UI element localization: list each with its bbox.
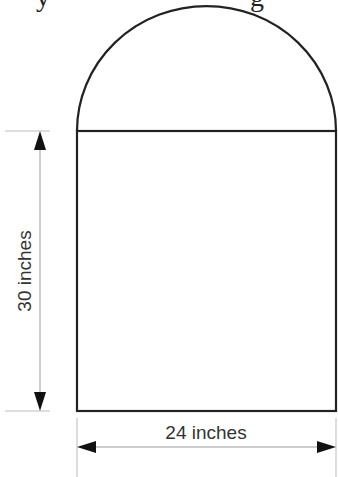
arrow-up-icon bbox=[34, 131, 46, 150]
cropped-top-text-left: y bbox=[36, 0, 50, 12]
cropped-top-text-right: g bbox=[250, 0, 264, 12]
shape-diagram: y g 30 inches 24 inches bbox=[0, 0, 338, 477]
arrow-left-icon bbox=[77, 441, 96, 453]
height-label: 30 inches bbox=[14, 230, 35, 311]
rectangle bbox=[77, 131, 336, 411]
arrow-right-icon bbox=[317, 441, 336, 453]
width-label: 24 inches bbox=[165, 422, 246, 443]
semicircle-arc bbox=[77, 6, 336, 131]
arrow-down-icon bbox=[34, 392, 46, 411]
